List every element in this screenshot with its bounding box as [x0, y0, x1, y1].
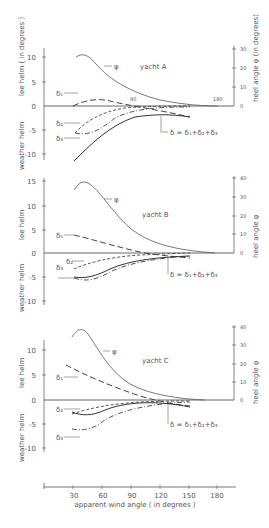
yr-tick-c-40: 40 [240, 324, 246, 330]
x-tick-60: 60 [99, 492, 108, 500]
y-tick-b-15: 15 [27, 178, 36, 186]
y-tick-c-m10: -10 [25, 445, 36, 453]
label-delta2-b: δ₂ [66, 258, 73, 266]
label-delta-sum-b: δ = δ₁+δ₂+δ₃ [170, 271, 218, 279]
yr-tick-c-0: 0 [240, 397, 243, 403]
y-tick-b-10: 10 [27, 203, 36, 211]
label-delta1-b: δ₁ [56, 232, 63, 240]
lee-helm-label-c: lee helm [18, 358, 26, 388]
yr-tick-b-0: 0 [240, 250, 243, 256]
y-tick-a-m5: -5 [29, 127, 36, 135]
heel-label-c: heel angle φ [252, 360, 260, 404]
panel-yacht-b: 15 10 5 0 -5 -10 40 30 20 10 0 lee helm … [18, 175, 260, 312]
panel-yacht-c: 10 5 0 -5 -10 40 30 20 10 0 lee helm wea… [18, 324, 260, 462]
y-tick-c-10: 10 [27, 347, 36, 355]
y-tick-a-5: 5 [32, 79, 36, 87]
label-delta-sum-c: δ = δ₁+δ₂+δ₃ [170, 421, 218, 429]
yr-tick-a-0: 0 [240, 103, 243, 109]
curve-delta-sum-a [74, 115, 190, 161]
y-tick-c-0: 0 [32, 397, 36, 405]
yr-tick-b-40: 40 [240, 175, 246, 181]
yr-tick-c-30: 30 [240, 342, 246, 348]
title-yacht-b: yacht B [142, 211, 169, 219]
curve-delta-sum-c [72, 403, 190, 415]
heel-label-b: heel angle φ [252, 214, 260, 258]
x-tick-150: 150 [182, 492, 195, 500]
weather-helm-label-a: weather helm [18, 121, 26, 170]
curve-delta2-b [74, 253, 190, 269]
label-delta1-c: δ₁ [56, 374, 63, 382]
lee-helm-label-b: lee helm [18, 210, 26, 240]
panel-yacht-a: 10 5 0 -5 -10 30 20 10 0 90 180 lee helm… [18, 14, 260, 170]
inline-label-180: 180 [213, 96, 223, 102]
label-delta1-a: δ₁ [56, 90, 63, 98]
yr-tick-c-20: 20 [240, 361, 246, 367]
y-tick-a-m10: -10 [25, 151, 36, 159]
label-delta2-a: δ₂ [56, 120, 63, 128]
yr-tick-b-30: 30 [240, 194, 246, 200]
y-tick-a-10: 10 [27, 54, 36, 62]
y-tick-a-0: 0 [32, 103, 36, 111]
weather-helm-label-c: weather helm [18, 413, 26, 462]
x-tick-120: 120 [154, 492, 167, 500]
y-tick-c-m5: -5 [29, 421, 36, 429]
lee-helm-label-a: lee helm ( in degrees ) [18, 17, 26, 96]
x-axis: 30 60 90 120 150 180 apparent wind angle… [44, 483, 236, 509]
label-phi-b: φ [114, 196, 119, 204]
heel-label-a: heel angle φ (in degrees) [252, 14, 260, 102]
helm-heel-figure: 10 5 0 -5 -10 30 20 10 0 90 180 lee helm… [0, 0, 269, 528]
x-tick-180: 180 [210, 492, 223, 500]
y-tick-c-5: 5 [32, 372, 36, 380]
label-phi-c: φ [112, 348, 117, 356]
y-tick-b-0: 0 [32, 250, 36, 258]
title-yacht-a: yacht A [140, 63, 167, 71]
x-tick-90: 90 [128, 492, 137, 500]
weather-helm-label-b: weather helm [18, 263, 26, 312]
yr-tick-a-10: 10 [240, 84, 246, 90]
yr-tick-c-10: 10 [240, 379, 246, 385]
label-delta-sum-a: δ = δ₁+δ₂+δ₃ [170, 129, 218, 137]
curve-phi-c [72, 330, 205, 400]
yr-tick-a-30: 30 [240, 46, 246, 52]
label-delta3-c: δ₃ [56, 434, 63, 442]
x-tick-30: 30 [70, 492, 79, 500]
curve-delta2-c [72, 401, 190, 414]
label-phi-a: φ [114, 63, 119, 71]
yr-tick-a-20: 20 [240, 65, 246, 71]
x-axis-label: apparent wind angle ( in degrees ) [74, 501, 195, 509]
label-delta3-b: δ₃ [56, 264, 63, 272]
y-tick-b-5: 5 [32, 227, 36, 235]
yr-tick-b-20: 20 [240, 213, 246, 219]
yr-tick-b-10: 10 [240, 231, 246, 237]
title-yacht-c: yacht C [142, 357, 169, 365]
label-delta2-c: δ₂ [56, 406, 63, 414]
inline-label-90: 90 [130, 96, 136, 102]
y-tick-b-m10: -10 [25, 298, 36, 306]
curve-delta1-b [74, 235, 190, 258]
y-tick-b-m5: -5 [29, 274, 36, 282]
label-delta3-a: δ₃ [56, 135, 63, 143]
